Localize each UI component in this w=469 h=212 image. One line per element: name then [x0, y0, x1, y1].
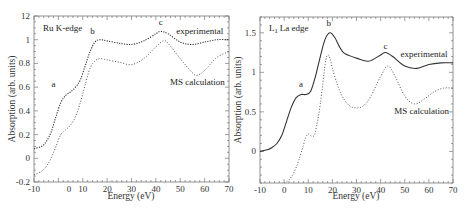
annotation-label: MS calculation [394, 106, 449, 116]
y-tick-labels: -0.200.20.40.60.8112 [16, 11, 31, 187]
ms-calculation-curve [284, 55, 453, 183]
y-tick-label: -0.2 [16, 177, 30, 187]
x-tick-label: -10 [254, 185, 266, 195]
x-tick-label: 60 [200, 184, 210, 194]
y-tick-label: 0.8 [19, 58, 31, 68]
y-tick-label: 1 [252, 67, 257, 77]
x-axis-title: Energy (eV) [107, 191, 154, 202]
x-tick-label: 10 [78, 184, 88, 194]
y-tick-label: 1.5 [245, 28, 257, 38]
annotation-label: MS calculation [170, 77, 225, 87]
figure: -10010203040506070 -0.200.20.40.60.8112 … [0, 0, 469, 212]
data-series [34, 31, 229, 174]
axis-ticks [260, 17, 453, 183]
y-tick-label: 0.4 [19, 106, 31, 116]
annotation-label: a [52, 79, 56, 89]
y-tick-label: 0 [26, 153, 31, 163]
y-tick-label: 0 [252, 146, 257, 156]
y-tick-label: 0.6 [19, 82, 31, 92]
chart-title: L1La edge [269, 23, 308, 34]
experimental-curve [34, 31, 229, 148]
ms-calculation-curve [34, 41, 229, 175]
x-tick-label: 10 [304, 185, 314, 195]
x-tick-label: 0 [282, 185, 287, 195]
chart-title: Ru K-edge [43, 23, 82, 33]
x-tick-label: 70 [449, 185, 459, 195]
y-tick-label: 0.2 [19, 130, 30, 140]
ru-k-edge-chart: -10010203040506070 -0.200.20.40.60.8112 … [7, 11, 234, 202]
annotation-label: b [327, 18, 332, 28]
x-tick-label: 0 [67, 184, 72, 194]
annotation-label: experimental [401, 49, 448, 59]
annotation-label: c [159, 17, 163, 27]
annotation-label: a [299, 79, 303, 89]
y-tick-label: 1 [26, 35, 31, 45]
l1-la-edge-chart: -10010203040506070 00.511.5 abcexperimen… [233, 17, 458, 202]
x-tick-label: 50 [176, 184, 186, 194]
y-tick-label: 0.5 [245, 107, 257, 117]
annotation-label: b [90, 26, 95, 36]
x-tick-label: 60 [424, 185, 434, 195]
annotations: abcexperimentalMS calculation [299, 18, 449, 116]
x-axis-title: Energy (eV) [332, 191, 379, 202]
y-axis-title: Absorption (arb. units) [233, 57, 244, 144]
plot-frame [260, 17, 453, 183]
y-tick-label: 12 [21, 11, 30, 21]
y-tick-labels: 00.511.5 [245, 28, 257, 157]
x-tick-label: 70 [225, 184, 235, 194]
annotation-label: c [383, 41, 387, 51]
annotation-label: experimental [176, 26, 223, 36]
y-axis-title: Absorption (arb. units) [7, 56, 18, 143]
x-tick-label: 50 [400, 185, 410, 195]
